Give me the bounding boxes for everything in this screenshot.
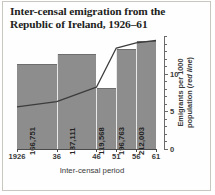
x-axis-tick-label: 56: [132, 152, 140, 161]
y-axis-tick-label: 5: [170, 107, 174, 116]
y-axis-major-tick: [164, 149, 168, 150]
x-axis-tick-label: 36: [52, 152, 60, 161]
y-axis-label-line2-suffix: ): [185, 57, 194, 59]
y-axis-label-wrapper: Emigrants per 1000 population (red line): [176, 36, 206, 149]
x-axis-tick-label: 61: [152, 152, 160, 161]
emigration-rate-line: [17, 41, 156, 107]
y-axis-minor-tick: [164, 89, 167, 90]
y-axis-label-line1: Emigrants per 1000: [176, 58, 185, 126]
y-axis-tick-label: 0: [170, 145, 174, 154]
chart-figure: Inter-censal emigration from the Republi…: [0, 0, 215, 195]
y-axis-minor-tick: [164, 44, 167, 45]
x-axis-tick-label: 46: [92, 152, 100, 161]
y-axis-minor-tick: [164, 81, 167, 82]
y-axis-minor-tick: [164, 51, 167, 52]
x-axis-tick-label: 1926: [9, 152, 26, 161]
y-axis-major-tick: [164, 74, 168, 75]
chart-title: Inter-censal emigration from the Republi…: [10, 5, 168, 30]
plot-area: 166,751187,111119,568196,763212,003: [17, 36, 156, 149]
y-axis-minor-tick: [164, 96, 167, 97]
y-axis-minor-tick: [164, 141, 167, 142]
y-axis-label-line2-emphasis: red line: [185, 59, 194, 85]
y-axis-major-tick: [164, 111, 168, 112]
y-axis-minor-tick: [164, 126, 167, 127]
y-axis-minor-tick: [164, 104, 167, 105]
y-axis-minor-tick: [164, 66, 167, 67]
y-axis-minor-tick: [164, 134, 167, 135]
y-axis-minor-tick: [164, 36, 167, 37]
y-axis-minor-tick: [164, 59, 167, 60]
x-axis-label: Inter-censal period: [0, 166, 184, 175]
y-axis-minor-tick: [164, 119, 167, 120]
x-axis-tick-label: 51: [112, 152, 120, 161]
line-series: [17, 36, 156, 149]
x-axis-line: [17, 149, 156, 150]
y-axis-label: Emigrants per 1000 population (red line): [176, 36, 194, 149]
y-axis-line: [164, 36, 165, 149]
y-axis-label-line2-prefix: population (: [185, 86, 194, 128]
